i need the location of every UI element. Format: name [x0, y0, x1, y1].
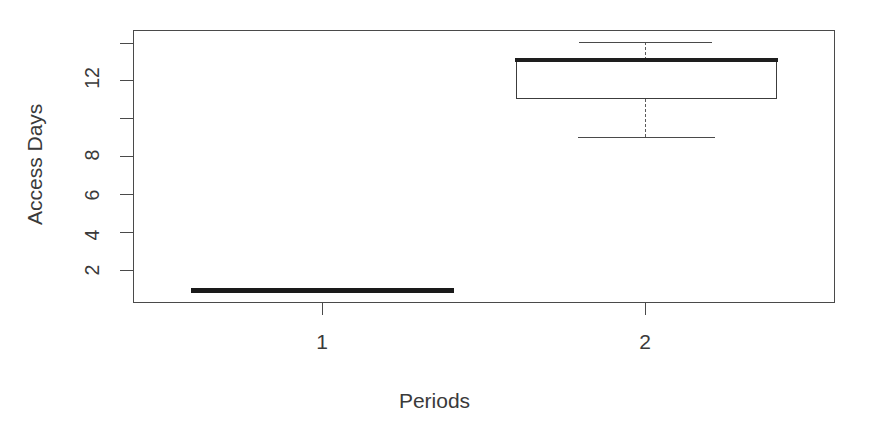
- boxplot-figure: Access Days 2 4 6 8 12 1 2 Periods: [0, 0, 869, 438]
- boxplot-group-2-lower-whisker: [645, 99, 646, 137]
- boxplot-group-2-upper-cap: [579, 42, 712, 43]
- x-axis-tick-1: [322, 303, 323, 315]
- y-tick-label-6: 6: [62, 185, 122, 205]
- y-tick-label-2: 2: [62, 260, 122, 280]
- x-axis-title: Periods: [0, 388, 869, 414]
- y-axis-title-text: Access Days: [24, 105, 46, 225]
- y-axis-title: Access Days: [14, 100, 56, 230]
- y-axis-tick-12: [120, 80, 133, 81]
- boxplot-group-1: [191, 288, 454, 293]
- y-tick-label-10: [62, 108, 122, 128]
- boxplot-group-2-median: [515, 58, 778, 62]
- y-axis-tick-4: [120, 232, 133, 233]
- y-tick-label-14: [62, 33, 122, 53]
- y-axis-tick-14: [120, 43, 133, 44]
- boxplot-group-2-lower-cap: [578, 137, 715, 138]
- y-axis-tick-6: [120, 194, 133, 195]
- y-axis-tick-8: [120, 156, 133, 157]
- boxplot-group-2-box: [516, 60, 777, 99]
- x-axis-tick-2: [645, 303, 646, 315]
- y-axis-tick-10: [120, 118, 133, 119]
- y-tick-label-8: 8: [62, 145, 122, 165]
- x-tick-label-1: 1: [282, 330, 362, 354]
- x-tick-label-2: 2: [605, 330, 685, 354]
- y-axis-tick-2: [120, 270, 133, 271]
- y-tick-label-12: 12: [60, 68, 124, 88]
- y-tick-label-4: 4: [62, 225, 122, 245]
